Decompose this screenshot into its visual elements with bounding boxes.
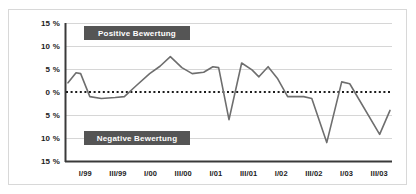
y-axis-tick-label: 5 % [26, 111, 60, 120]
chart-container: 15 %10 %5 %0 %5 %10 %15 % I/99III/99I/00… [0, 0, 416, 194]
y-axis-tick-label: 10 % [26, 42, 60, 51]
x-axis-tick-label: III/01 [240, 169, 257, 178]
x-axis-tick-label: I/00 [144, 169, 157, 178]
x-axis-tick-label: III/02 [305, 169, 322, 178]
y-axis-tick-label: 5 % [26, 65, 60, 74]
y-axis-tick-label: 0 % [26, 88, 60, 97]
x-axis-tick-label: I/99 [79, 169, 92, 178]
x-axis-tick-label: I/03 [340, 169, 353, 178]
negative-region-banner: Negative Bewertung [84, 131, 190, 145]
chart-plot-area [0, 0, 416, 194]
positive-region-banner: Positive Bewertung [84, 26, 190, 40]
x-axis-tick-label: I/02 [275, 169, 288, 178]
x-axis-tick-label: III/00 [175, 169, 192, 178]
y-axis-tick-label: 15 % [26, 157, 60, 166]
y-axis-tick-label: 15 % [26, 19, 60, 28]
x-axis-tick-label: III/99 [109, 169, 126, 178]
x-axis-tick-label: III/03 [371, 169, 388, 178]
y-axis-tick-label: 10 % [26, 134, 60, 143]
x-axis-tick-label: I/01 [209, 169, 222, 178]
